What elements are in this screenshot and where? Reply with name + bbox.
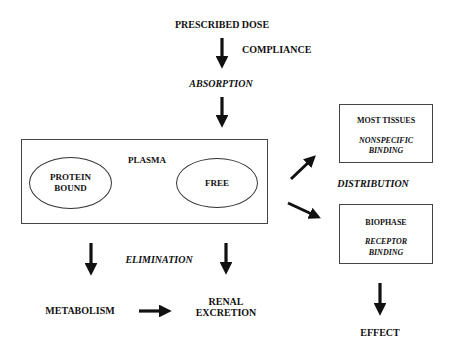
biophase-compartment: BIOPHASE RECEPTOR BINDING: [339, 204, 433, 264]
receptor-line2: BINDING: [340, 247, 432, 258]
effect-label: EFFECT: [350, 327, 410, 338]
absorption-label: ABSORPTION: [176, 78, 266, 89]
most-tissues-label: MOST TISSUES: [340, 115, 432, 126]
most-tissues-compartment: MOST TISSUES NONSPECIFIC BINDING: [339, 104, 433, 163]
receptor-line1: RECEPTOR: [340, 236, 432, 247]
arrow-to-biophase: [288, 203, 316, 216]
protein-bound-node: PROTEIN BOUND: [29, 157, 112, 209]
biophase-label: BIOPHASE: [340, 217, 432, 228]
nonspecific-line2: BINDING: [340, 145, 432, 156]
compliance-label: COMPLIANCE: [242, 44, 322, 55]
protein-bound-line2: BOUND: [50, 183, 91, 194]
plasma-label: PLASMA: [125, 155, 169, 166]
renal-line2: EXCRETION: [186, 307, 266, 318]
metabolism-label: METABOLISM: [38, 305, 122, 316]
elimination-label: ELIMINATION: [117, 254, 201, 265]
renal-line1: RENAL: [186, 296, 266, 307]
protein-bound-line1: PROTEIN: [50, 172, 91, 183]
distribution-label: DISTRIBUTION: [331, 178, 415, 189]
free-node: FREE: [176, 158, 258, 208]
free-label: FREE: [205, 178, 229, 189]
arrow-to-most-tissues: [291, 159, 312, 179]
renal-excretion-label: RENAL EXCRETION: [186, 296, 266, 318]
prescribed-dose-label: PRESCRIBED DOSE: [164, 19, 280, 30]
